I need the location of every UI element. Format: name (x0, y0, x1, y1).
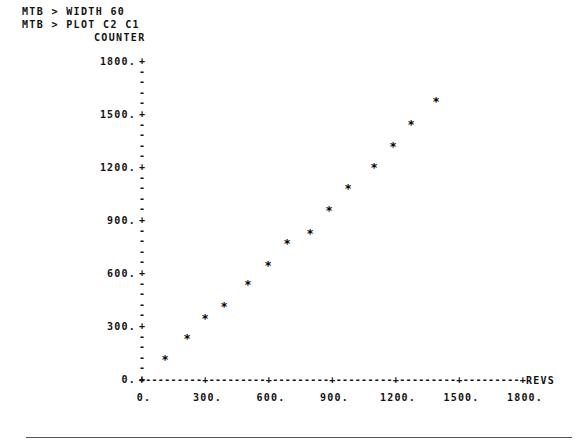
y-axis-major-tick: + (139, 215, 145, 225)
x-axis-tick-label: 1500. (432, 392, 492, 403)
y-axis-minor-tick: - (139, 257, 145, 267)
data-point-marker: * (326, 205, 333, 217)
y-axis-minor-tick: - (139, 77, 145, 87)
y-axis-minor-tick: - (139, 300, 145, 310)
y-axis-minor-tick: - (139, 67, 145, 77)
data-point-marker: * (162, 354, 169, 366)
y-axis-tick-label: 1800. (76, 56, 136, 67)
data-point-marker: * (283, 238, 290, 250)
x-axis-tick-label: 300. (178, 392, 238, 403)
data-point-marker: * (390, 141, 397, 153)
y-axis-minor-tick: - (139, 88, 145, 98)
y-axis-minor-tick: - (139, 183, 145, 193)
x-axis-title: REVS (526, 375, 555, 386)
data-point-marker: * (184, 333, 191, 345)
data-point-marker: * (433, 96, 440, 108)
x-axis-line: +---------+---------+---------+---------… (139, 375, 526, 385)
data-point-marker: * (370, 162, 377, 174)
x-axis-tick-label: 1200. (368, 392, 428, 403)
scatter-plot-area: 1800.+----1500.+----1200.+----900.+----6… (0, 0, 581, 447)
y-axis-minor-tick: - (139, 363, 145, 373)
y-axis-minor-tick: - (139, 226, 145, 236)
y-axis-minor-tick: - (139, 194, 145, 204)
page-divider-rule (26, 437, 572, 438)
y-axis-tick-label: 1200. (76, 162, 136, 173)
y-axis-major-tick: + (139, 321, 145, 331)
y-axis-tick-label: 0. (76, 374, 136, 385)
y-axis-minor-tick: - (139, 289, 145, 299)
y-axis-minor-tick: - (139, 247, 145, 257)
data-point-marker: * (307, 228, 314, 240)
x-axis-tick-label: 600. (241, 392, 301, 403)
y-axis-minor-tick: - (139, 342, 145, 352)
y-axis-minor-tick: - (139, 130, 145, 140)
y-axis-minor-tick: - (139, 332, 145, 342)
y-axis-minor-tick: - (139, 353, 145, 363)
x-axis-tick-label: 900. (305, 392, 365, 403)
y-axis-minor-tick: - (139, 279, 145, 289)
y-axis-major-tick: + (139, 109, 145, 119)
y-axis-minor-tick: - (139, 310, 145, 320)
y-axis-minor-tick: - (139, 236, 145, 246)
y-axis-minor-tick: - (139, 204, 145, 214)
y-axis-minor-tick: - (139, 173, 145, 183)
y-axis-tick-label: 300. (76, 321, 136, 332)
y-axis-major-tick: + (139, 162, 145, 172)
y-axis-major-tick: + (139, 56, 145, 66)
data-point-marker: * (202, 313, 209, 325)
data-point-marker: * (264, 260, 271, 272)
y-axis-tick-label: 1500. (76, 109, 136, 120)
y-axis-minor-tick: - (139, 120, 145, 130)
y-axis-minor-tick: - (139, 141, 145, 151)
y-axis-tick-label: 600. (76, 268, 136, 279)
data-point-marker: * (408, 119, 415, 131)
x-axis-tick-label: 0. (114, 392, 174, 403)
y-axis-minor-tick: - (139, 98, 145, 108)
data-point-marker: * (220, 301, 227, 313)
data-point-marker: * (244, 279, 251, 291)
y-axis-tick-label: 900. (76, 215, 136, 226)
y-axis-minor-tick: - (139, 151, 145, 161)
terminal-screen: MTB > WIDTH 60 MTB > PLOT C2 C1 COUNTER … (0, 0, 581, 447)
x-axis-tick-label: 1800. (495, 392, 555, 403)
y-axis-major-tick: + (139, 268, 145, 278)
data-point-marker: * (344, 183, 351, 195)
